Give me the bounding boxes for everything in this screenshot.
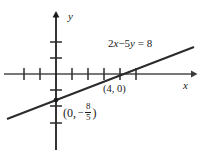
y-intercept-label-minus: − [78, 108, 84, 119]
y-intercept-marker [54, 98, 59, 103]
line-equation-label: 2x−5y = 8 [108, 38, 152, 49]
y-intercept-label-prefix: (0, [63, 107, 76, 119]
x-axis-label: x [183, 80, 188, 91]
x-intercept-point-label: (4, 0) [103, 84, 126, 95]
equation-equals: = [138, 37, 144, 49]
fraction-numerator: 8 [85, 102, 92, 111]
graph-canvas [0, 0, 201, 154]
fraction-eight-fifths: 85 [85, 102, 92, 122]
equation-var-y: y [130, 37, 135, 49]
y-intercept-point-label: (0,−85) [63, 103, 96, 123]
equation-rhs: 8 [147, 37, 153, 49]
y-intercept-label-suffix: ) [92, 107, 96, 119]
y-axis [53, 11, 60, 150]
coordinate-graph-figure: y x 2x−5y = 8 (4, 0) (0,−85) [0, 0, 201, 154]
fraction-denominator: 5 [85, 113, 92, 122]
x-axis [4, 71, 198, 78]
y-axis-label: y [68, 11, 73, 22]
plotted-line [7, 47, 194, 119]
